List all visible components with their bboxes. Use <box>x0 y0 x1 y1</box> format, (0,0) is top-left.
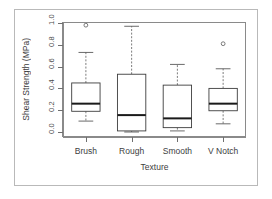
plot-frame <box>63 22 246 137</box>
x-axis-title: Texture <box>63 162 246 172</box>
y-axis <box>56 22 63 137</box>
x-axis-tick <box>177 137 178 142</box>
y-axis-tick-label: 0.6 <box>48 58 56 69</box>
x-axis-tick <box>132 137 133 142</box>
y-axis-tick-label: 0.0 <box>48 123 56 134</box>
y-axis-tick-label: 0.8 <box>48 36 56 47</box>
x-axis-line <box>63 137 246 138</box>
plot-area <box>63 22 246 137</box>
x-axis: BrushRoughSmoothV Notch <box>63 137 246 145</box>
y-axis-title-text: Shear Strength (MPa) <box>21 38 31 121</box>
y-axis-tick-label: 0.4 <box>48 79 56 90</box>
figure-panel: Shear Strength (MPa) BrushRoughSmoothV N… <box>14 9 258 186</box>
x-axis-tick-label: Rough <box>119 146 144 156</box>
x-axis-tick <box>86 137 87 142</box>
x-axis-tick-label: Smooth <box>163 146 192 156</box>
x-axis-tick <box>223 137 224 142</box>
y-axis-tick-label: 0.2 <box>48 101 56 112</box>
y-axis-tick-label: 1.0 <box>48 14 56 25</box>
x-axis-tick-label: Brush <box>75 146 97 156</box>
y-axis-title: Shear Strength (MPa) <box>19 22 33 137</box>
x-axis-tick-label: V Notch <box>208 146 238 156</box>
